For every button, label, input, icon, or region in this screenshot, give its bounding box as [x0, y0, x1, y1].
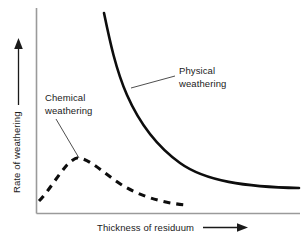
chart-canvas — [0, 0, 307, 242]
chemical-weathering-annotation-line1: Chemical — [45, 92, 92, 105]
physical-weathering-annotation-line1: Physical — [179, 65, 226, 78]
arrow-up-icon — [14, 38, 23, 49]
physical-weathering-annotation: Physical weathering — [179, 65, 226, 90]
chemical-leader-line — [56, 119, 79, 158]
physical-leader-line — [131, 76, 175, 88]
chemical-weathering-annotation: Chemical weathering — [45, 92, 92, 117]
arrow-right-icon — [237, 223, 248, 231]
weathering-rate-chart: Thickness of residuum Rate of weathering… — [0, 0, 307, 242]
y-axis-label: Rate of weathering — [11, 106, 24, 198]
x-axis-label: Thickness of residuum — [97, 222, 194, 235]
chemical-weathering-annotation-line2: weathering — [45, 105, 92, 118]
physical-weathering-annotation-line2: weathering — [179, 78, 226, 91]
chemical-weathering-curve — [39, 158, 186, 205]
physical-weathering-curve — [104, 13, 299, 188]
